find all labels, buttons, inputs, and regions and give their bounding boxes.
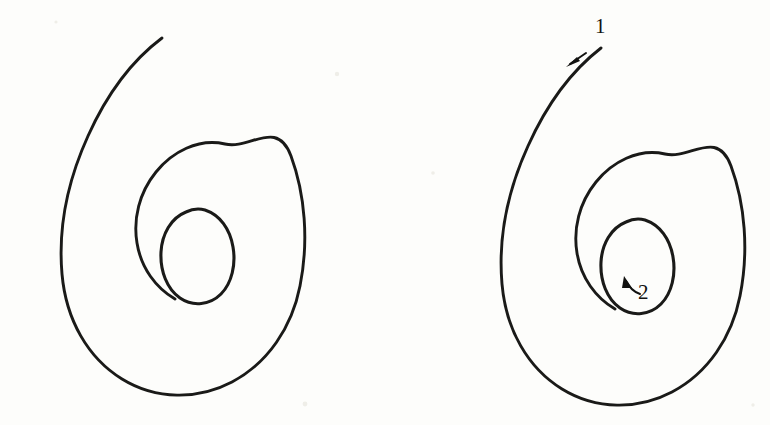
paper-speck bbox=[751, 403, 754, 406]
annotation-1-label: 1 bbox=[595, 14, 606, 38]
paper-speck bbox=[54, 20, 57, 23]
paper-speck bbox=[335, 72, 339, 76]
paper-speck bbox=[303, 402, 308, 407]
paper-speck bbox=[431, 171, 435, 175]
paper-background bbox=[0, 0, 770, 425]
annotation-2-label: 2 bbox=[638, 280, 649, 304]
spiral-figure-canvas: 1 2 bbox=[0, 0, 770, 425]
